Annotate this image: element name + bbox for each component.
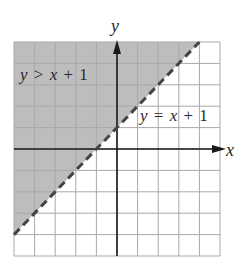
x-axis-arrow-icon — [212, 145, 226, 153]
inequality-graph: y x y > x + 1 y = x + 1 — [0, 0, 246, 268]
x-axis-label: x — [225, 140, 234, 160]
line-label: y = x + 1 — [138, 106, 208, 125]
y-axis-label: y — [109, 16, 119, 36]
